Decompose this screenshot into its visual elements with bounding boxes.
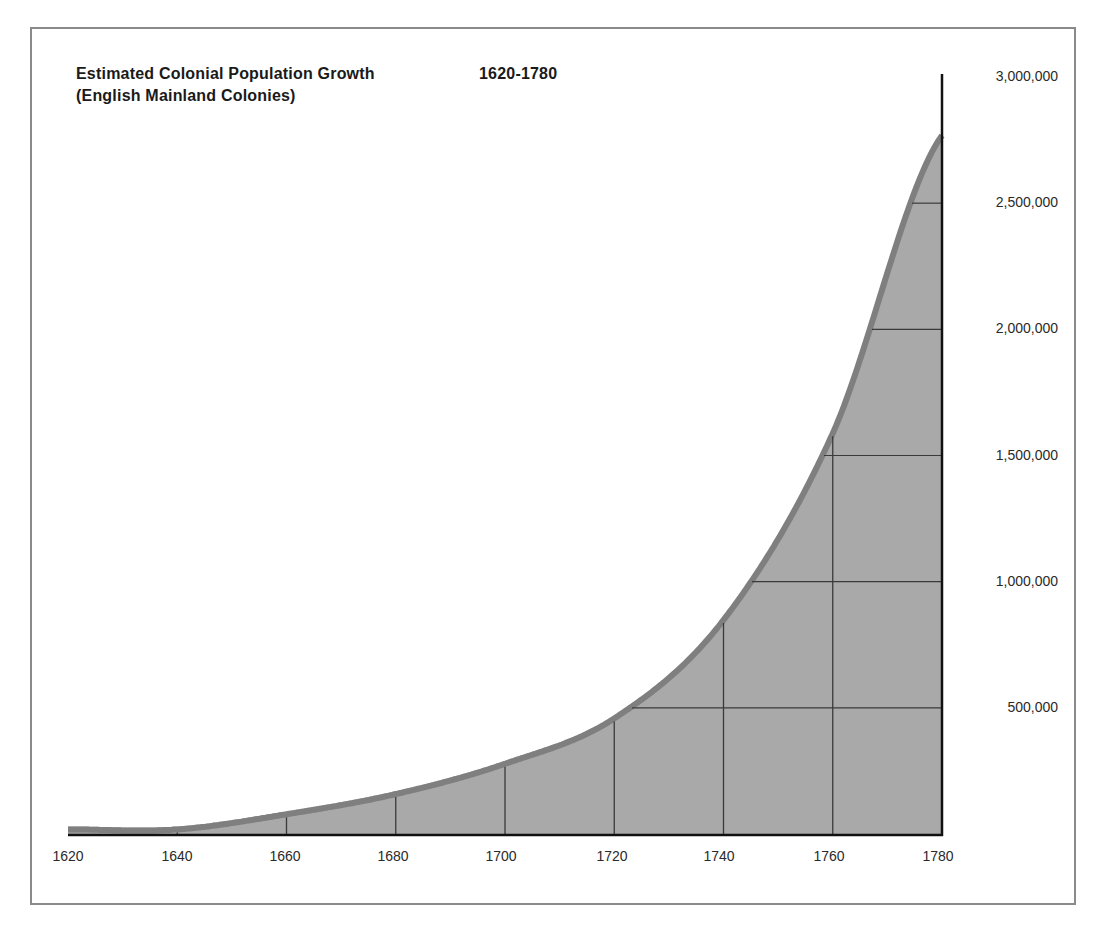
x-tick-label: 1720 — [596, 848, 627, 864]
x-tick-label: 1680 — [377, 848, 408, 864]
x-tick-label: 1760 — [813, 848, 844, 864]
y-tick-label: 2,000,000 — [996, 320, 1058, 336]
x-tick-label: 1640 — [161, 848, 192, 864]
y-tick-label: 3,000,000 — [996, 68, 1058, 84]
x-tick-label: 1740 — [703, 848, 734, 864]
chart-plot — [0, 0, 1094, 933]
x-tick-label: 1780 — [922, 848, 953, 864]
y-tick-label: 1,000,000 — [996, 573, 1058, 589]
x-tick-label: 1620 — [52, 848, 83, 864]
y-tick-label: 1,500,000 — [996, 447, 1058, 463]
x-tick-label: 1700 — [485, 848, 516, 864]
y-tick-label: 500,000 — [1007, 699, 1058, 715]
y-tick-label: 2,500,000 — [996, 194, 1058, 210]
x-tick-label: 1660 — [269, 848, 300, 864]
population-area — [68, 133, 942, 835]
